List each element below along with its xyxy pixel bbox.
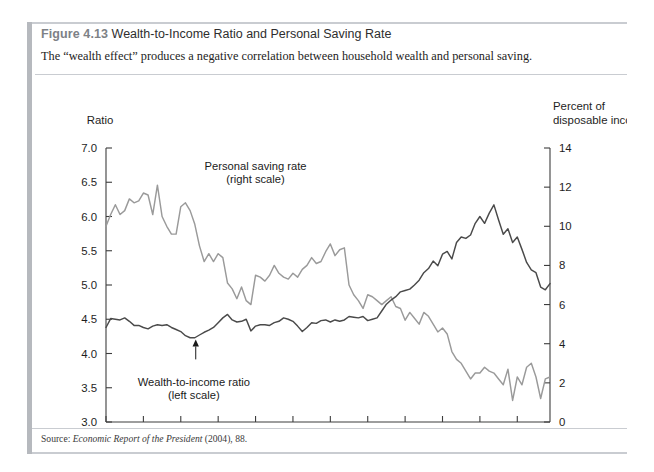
y-tick-label-right: 0 <box>559 416 565 428</box>
y-axis-title-right: disposable income <box>553 114 627 126</box>
figure-title: Figure 4.13 Wealth-to-Income Ratio and P… <box>41 27 391 41</box>
chart-annotations: Personal saving rate(right scale)Wealth-… <box>138 160 307 402</box>
x-tick-label: 2000 <box>467 427 492 428</box>
top-divider <box>32 22 627 24</box>
y-tick-label-right: 6 <box>559 299 565 311</box>
x-tick-label: 1998 <box>430 427 455 428</box>
annotation-label: Personal saving rate <box>205 160 307 172</box>
y-tick-label-right: 8 <box>559 259 565 271</box>
figure-title-text: Wealth-to-Income Ratio and Personal Savi… <box>112 27 392 41</box>
bottom-divider-2 <box>32 452 627 454</box>
annotation-label: Wealth-to-income ratio <box>138 376 250 388</box>
x-tick-label: 2002 <box>505 427 530 428</box>
y-tick-label-right: 12 <box>559 181 572 193</box>
figure-source: Source: Economic Report of the President… <box>41 433 247 444</box>
x-tick-label: 1990 <box>280 427 305 428</box>
figure-card: Figure 4.13 Wealth-to-Income Ratio and P… <box>27 22 627 454</box>
y-tick-label-left: 3.5 <box>81 382 97 394</box>
y-tick-label-left: 6.0 <box>81 211 97 223</box>
annotation-label: (right scale) <box>226 173 285 185</box>
x-tick-label: 1986 <box>205 427 230 428</box>
y-tick-label-left: 7.0 <box>81 142 97 154</box>
y-tick-label-left: 5.5 <box>81 245 97 257</box>
x-tick-label: 1980 <box>93 427 118 428</box>
y-tick-label-left: 5.0 <box>81 279 97 291</box>
y-tick-label-left: 4.0 <box>81 348 97 360</box>
source-publication: Economic Report of the President <box>73 433 203 444</box>
y-axis-title-left: Ratio <box>87 114 114 126</box>
y-tick-label-right: 10 <box>559 220 572 232</box>
x-tick-label: 1982 <box>131 427 156 428</box>
y-tick-label-left: 4.5 <box>81 313 97 325</box>
figure-number: Figure 4.13 <box>41 27 108 41</box>
x-tick-label: 1996 <box>392 427 417 428</box>
annotation-arrow-head <box>193 339 199 346</box>
y-axis-title-right: Percent of <box>553 100 606 112</box>
figure-subtitle: The “wealth effect” produces a negative … <box>41 49 532 64</box>
source-prefix: Source: <box>41 433 73 444</box>
line-chart: Personal saving rate(right scale)Wealth-… <box>27 74 627 428</box>
chart-series-group <box>106 185 550 400</box>
y-tick-label-left: 6.5 <box>81 176 97 188</box>
y-tick-label-right: 4 <box>559 338 565 350</box>
bottom-divider <box>32 428 627 429</box>
x-tick-label: 1992 <box>318 427 343 428</box>
source-suffix: (2004), 88. <box>202 433 247 444</box>
x-tick-label: 1988 <box>243 427 268 428</box>
y-tick-label-right: 2 <box>559 377 565 389</box>
annotation-label: (left scale) <box>168 389 220 401</box>
series-line-wealth-to-income-ratio <box>106 205 550 338</box>
chart-plot-area: Personal saving rate(right scale)Wealth-… <box>27 74 627 428</box>
x-tick-label: 1994 <box>355 427 380 428</box>
series-line-personal-saving-rate <box>106 185 550 400</box>
x-tick-label: 1984 <box>168 427 193 428</box>
y-tick-label-right: 14 <box>559 142 572 154</box>
